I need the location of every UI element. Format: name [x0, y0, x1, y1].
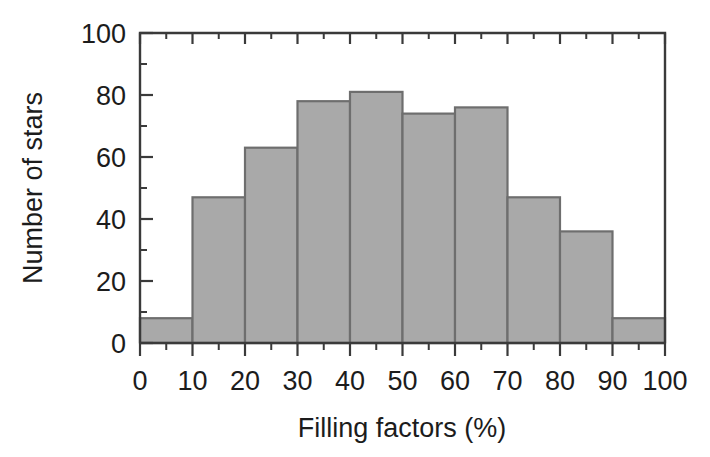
y-tick-label: 0	[111, 329, 126, 359]
y-tick-label: 40	[96, 205, 126, 235]
x-tick-label: 30	[282, 366, 312, 396]
y-axis-title: Number of stars	[18, 92, 48, 284]
x-tick-label: 10	[177, 366, 207, 396]
x-tick-label: 0	[132, 366, 147, 396]
histogram-bar	[613, 318, 666, 343]
x-tick-label: 90	[597, 366, 627, 396]
histogram-bar	[193, 197, 246, 343]
x-tick-label: 80	[545, 366, 575, 396]
y-tick-label: 60	[96, 143, 126, 173]
histogram-bar	[245, 148, 298, 343]
histogram-bar	[508, 197, 561, 343]
histogram-bar	[403, 114, 456, 343]
histogram-bar	[350, 92, 403, 343]
x-tick-label: 70	[492, 366, 522, 396]
y-tick-label: 100	[81, 19, 126, 49]
chart-canvas: 0102030405060708090100 020406080100 Fill…	[0, 0, 710, 457]
x-axis-title: Filling factors (%)	[298, 413, 507, 443]
histogram-figure: 0102030405060708090100 020406080100 Fill…	[0, 0, 710, 457]
histogram-bar	[560, 231, 613, 343]
y-tick-label: 80	[96, 81, 126, 111]
histogram-bar	[455, 107, 508, 343]
histogram-bar	[140, 318, 193, 343]
x-tick-label: 100	[642, 366, 687, 396]
y-tick-label: 20	[96, 267, 126, 297]
histogram-bar	[298, 101, 351, 343]
x-tick-label: 60	[440, 366, 470, 396]
x-tick-label: 50	[387, 366, 417, 396]
x-tick-label: 20	[230, 366, 260, 396]
x-tick-label: 40	[335, 366, 365, 396]
